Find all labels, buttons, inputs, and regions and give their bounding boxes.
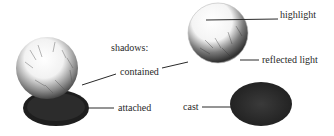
right-sphere xyxy=(188,3,248,63)
left-sphere xyxy=(16,37,78,99)
label-attached: attached xyxy=(118,102,151,114)
heading-shadows: shadows: xyxy=(111,42,148,54)
label-reflected-light: reflected light xyxy=(262,54,318,66)
label-cast: cast xyxy=(183,101,199,113)
shadow-types-diagram: shadows: contained attached highlight re… xyxy=(0,0,334,136)
leader-contained-right xyxy=(162,62,188,68)
label-highlight: highlight xyxy=(280,9,316,21)
cast-shadow xyxy=(230,82,292,126)
label-contained: contained xyxy=(120,66,159,78)
leader-contained-left xyxy=(82,74,116,85)
